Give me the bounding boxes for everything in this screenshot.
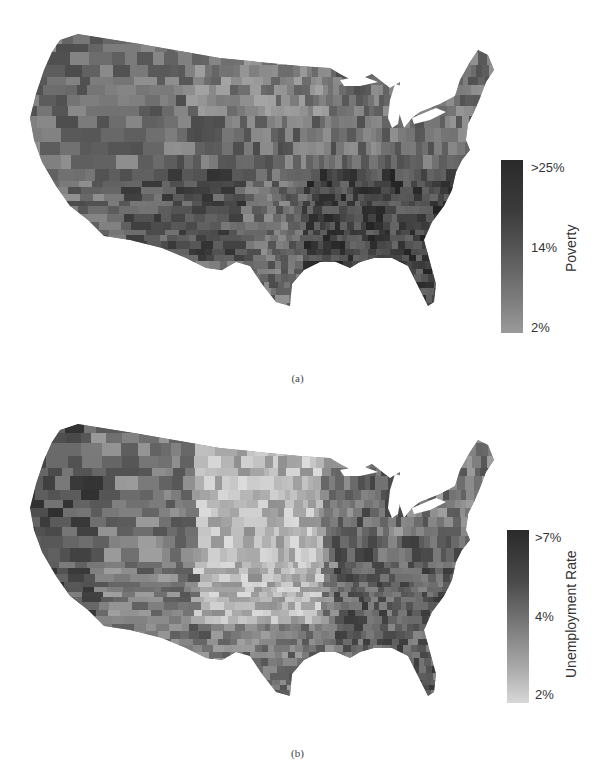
unemployment-tick-max: >7% — [535, 530, 561, 545]
unemployment-choropleth-map — [0, 390, 595, 778]
unemployment-map-panel: >7% 4% 2% Unemployment Rate (b) — [0, 390, 595, 778]
poverty-tick-max: >25% — [531, 160, 565, 175]
county-tiles — [25, 420, 508, 716]
poverty-colorbar — [501, 160, 523, 333]
unemployment-tick-min: 2% — [535, 687, 554, 702]
poverty-tick-mid: 14% — [531, 240, 557, 255]
unemployment-colorbar — [507, 530, 529, 703]
county-tiles — [25, 30, 509, 332]
poverty-colorbar-label: Poverty — [563, 225, 579, 272]
caption-a: (a) — [0, 372, 595, 384]
unemployment-tick-mid: 4% — [535, 609, 554, 624]
caption-b: (b) — [0, 747, 595, 759]
poverty-tick-min: 2% — [531, 320, 550, 335]
poverty-map-panel: >25% 14% 2% Poverty (a) — [0, 0, 595, 390]
unemployment-colorbar-label: Unemployment Rate — [563, 550, 579, 678]
